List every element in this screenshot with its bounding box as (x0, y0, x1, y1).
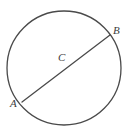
geometry-canvas (0, 0, 133, 135)
circle-outline (7, 11, 121, 125)
diameter-line-ab (22, 35, 110, 102)
geometry-figure: A B C (0, 0, 133, 135)
point-label-b: B (113, 25, 120, 36)
point-label-a: A (10, 98, 17, 109)
point-label-c: C (58, 52, 65, 63)
